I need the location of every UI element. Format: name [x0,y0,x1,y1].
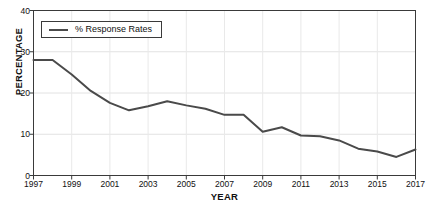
legend-line-swatch [49,29,68,31]
chart-legend: % Response Rates [41,21,162,38]
x-tick-label: 2005 [177,179,196,189]
x-tick-label: 1997 [24,179,43,189]
x-tick-label: 2003 [139,179,158,189]
x-tick-label: 2015 [368,179,387,189]
x-tick-label: 2007 [215,179,234,189]
x-axis-title: YEAR [33,191,416,202]
x-tick-label: 2017 [406,179,425,189]
x-tick-label: 1999 [62,179,81,189]
legend-label: % Response Rates [75,25,152,34]
x-tick-label: 2013 [330,179,349,189]
x-tick-label: 2001 [100,179,119,189]
line-chart: PERCENTAGE 010203040 1997199920012003200… [0,0,429,207]
x-tick-label: 2009 [253,179,272,189]
x-tick-label: 2011 [292,179,310,189]
